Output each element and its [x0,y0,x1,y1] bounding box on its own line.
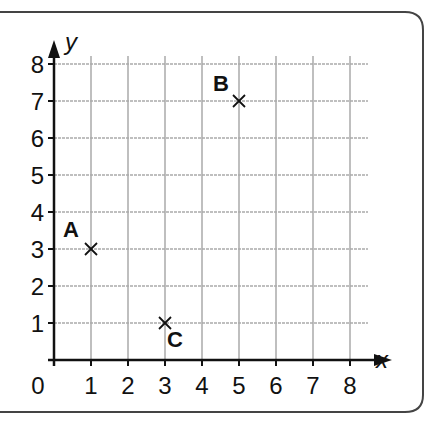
x-tick-label: 4 [195,372,208,399]
x-tick-label: 3 [158,372,171,399]
y-tick-label: 2 [31,273,44,300]
x-axis-label: x [375,346,389,373]
grid-lines [54,56,368,360]
y-tick-label: 4 [31,199,44,226]
x-tick-label: 5 [232,372,245,399]
y-axis-arrow-icon [48,40,60,58]
point-label: C [167,327,183,352]
point-b: B [213,71,245,107]
y-tick-label: 7 [31,88,44,115]
x-tick-label: 0 [31,372,44,399]
y-tick-label: 3 [31,236,44,263]
tick-labels: 01234567812345678 [31,51,357,399]
y-tick-label: 5 [31,162,44,189]
x-tick-label: 6 [269,372,282,399]
y-tick-label: 8 [31,51,44,78]
point-label: B [213,71,229,96]
point-label: A [63,217,79,242]
x-tick-label: 2 [121,372,134,399]
coordinate-grid-chart: 01234567812345678 ABC x y [0,0,435,424]
y-tick-label: 6 [31,125,44,152]
y-axis-label: y [63,28,79,55]
x-tick-label: 8 [343,372,356,399]
x-tick-label: 1 [84,372,97,399]
y-tick-label: 1 [31,310,44,337]
x-tick-label: 7 [306,372,319,399]
